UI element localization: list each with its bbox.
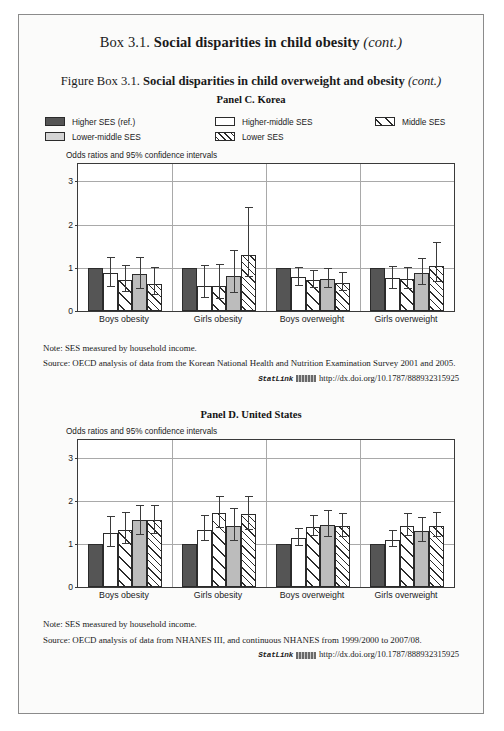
panel-c-axis-note: Odds ratios and 95% confidence intervals bbox=[66, 151, 483, 160]
legend-swatch-icon-lower-ses bbox=[215, 132, 235, 141]
statlink-label: StatLink bbox=[258, 375, 293, 383]
error-bar-higher-middle-ses bbox=[204, 515, 205, 542]
panel-c-statlink[interactable]: StatLinkhttp://dx.doi.org/10.1787/888932… bbox=[43, 372, 459, 385]
error-bar-middle-ses bbox=[125, 512, 126, 544]
panel-d-footnotes: Note: SES measured by household income. … bbox=[43, 618, 459, 661]
legend-swatch-icon-higher-ses bbox=[45, 117, 65, 126]
panel-d-chart: 0123 Boys obesityGirls obesityBoys overw… bbox=[41, 439, 461, 614]
box-title: Box 3.1. Social disparities in child obe… bbox=[19, 34, 483, 51]
panel-c-source-label: Source: bbox=[43, 358, 70, 368]
panel-d-source-text: OECD analysis of data from NHANES III, a… bbox=[72, 635, 421, 645]
y-axis-tick-label: 2 bbox=[39, 496, 78, 506]
x-axis-label: Boys obesity bbox=[99, 314, 149, 324]
figure-title: Figure Box 3.1. Social disparities in ch… bbox=[19, 74, 483, 89]
x-axis-label: Girls overweight bbox=[374, 590, 437, 600]
error-bar-higher-middle-ses bbox=[392, 266, 393, 289]
error-bar-lower-ses bbox=[248, 496, 249, 530]
x-axis-label: Boys overweight bbox=[280, 314, 345, 324]
panel-c-chart: 0123 Boys obesityGirls obesityBoys overw… bbox=[41, 163, 461, 338]
group-separator bbox=[266, 440, 267, 587]
statlink-label: StatLink bbox=[258, 651, 293, 659]
box-number: Box 3.1. bbox=[100, 34, 150, 50]
y-axis-tick-label: 0 bbox=[39, 306, 78, 316]
panel-c-note-label: Note: bbox=[43, 343, 63, 353]
figure-number: Figure Box 3.1. bbox=[61, 74, 140, 88]
group-separator bbox=[172, 164, 173, 311]
panel-c-x-axis-labels: Boys obesityGirls obesityBoys overweight… bbox=[77, 314, 455, 334]
panel-d-statlink[interactable]: StatLinkhttp://dx.doi.org/10.1787/888932… bbox=[43, 648, 459, 661]
panel-d-statlink-url[interactable]: http://dx.doi.org/10.1787/888932315925 bbox=[319, 649, 459, 659]
legend-item-lower-middle-ses: Lower-middle SES bbox=[45, 132, 215, 142]
panel-d-source: Source: OECD analysis of data from NHANE… bbox=[43, 634, 459, 646]
error-bar-lower-ses bbox=[154, 505, 155, 534]
legend-label-lower-middle-ses: Lower-middle SES bbox=[72, 132, 141, 142]
error-bar-higher-middle-ses bbox=[298, 528, 299, 546]
x-axis-label: Boys overweight bbox=[280, 590, 345, 600]
error-bar-middle-ses bbox=[219, 496, 220, 528]
error-bar-lower-middle-ses bbox=[328, 510, 329, 536]
panel-c-note: Note: SES measured by household income. bbox=[43, 342, 459, 354]
bar-higher-ses bbox=[182, 268, 197, 311]
bar-higher-ses bbox=[88, 544, 103, 587]
panel-c-footnotes: Note: SES measured by household income. … bbox=[43, 342, 459, 385]
error-bar-middle-ses bbox=[219, 264, 220, 299]
panel-c-statlink-url[interactable]: http://dx.doi.org/10.1787/888932315925 bbox=[319, 373, 459, 383]
group-separator bbox=[360, 164, 361, 311]
error-bar-higher-middle-ses bbox=[298, 267, 299, 286]
legend-label-higher-middle-ses: Higher-middle SES bbox=[242, 117, 313, 127]
panel-c-note-text: SES measured by household income. bbox=[65, 343, 197, 353]
legend-swatch-icon-lower-middle-ses bbox=[45, 132, 65, 141]
legend-swatch-icon-higher-middle-ses bbox=[215, 117, 235, 126]
legend-item-higher-middle-ses: Higher-middle SES bbox=[215, 117, 375, 127]
box-cont-marker: (cont.) bbox=[363, 34, 402, 50]
chart-legend: Higher SES (ref.) Higher-middle SES Midd… bbox=[45, 114, 457, 144]
panel-c-title: Panel C. Korea bbox=[19, 94, 483, 105]
panel-d-note-label: Note: bbox=[43, 619, 63, 629]
error-bar-lower-middle-ses bbox=[234, 508, 235, 540]
legend-label-middle-ses: Middle SES bbox=[402, 117, 445, 127]
error-bar-lower-middle-ses bbox=[328, 268, 329, 287]
error-bar-lower-middle-ses bbox=[422, 258, 423, 285]
error-bar-higher-middle-ses bbox=[392, 530, 393, 547]
error-bar-middle-ses bbox=[313, 515, 314, 537]
panel-d-title: Panel D. United States bbox=[19, 409, 483, 420]
panel-d-plot-area: 0123 bbox=[77, 439, 455, 588]
error-bar-lower-ses bbox=[342, 272, 343, 291]
panel-d-axis-note: Odds ratios and 95% confidence intervals bbox=[66, 427, 483, 436]
error-bar-higher-middle-ses bbox=[204, 265, 205, 299]
x-axis-label: Girls obesity bbox=[194, 590, 242, 600]
error-bar-middle-ses bbox=[407, 513, 408, 536]
panel-d-x-axis-labels: Boys obesityGirls obesityBoys overweight… bbox=[77, 590, 455, 610]
error-bar-middle-ses bbox=[407, 267, 408, 289]
group-separator bbox=[172, 440, 173, 587]
error-bar-lower-middle-ses bbox=[234, 250, 235, 293]
error-bar-lower-middle-ses bbox=[140, 505, 141, 535]
error-bar-lower-ses bbox=[154, 267, 155, 295]
legend-item-middle-ses: Middle SES bbox=[375, 117, 457, 127]
y-axis-tick-label: 3 bbox=[39, 176, 78, 186]
figure-cont-marker: (cont.) bbox=[408, 74, 441, 88]
legend-swatch-icon-middle-ses bbox=[375, 117, 395, 126]
figure-title-text: Social disparities in child overweight a… bbox=[143, 74, 405, 88]
panel-c-plot-area: 0123 bbox=[77, 163, 455, 312]
box-page: Box 3.1. Social disparities in child obe… bbox=[18, 14, 484, 714]
error-bar-lower-ses bbox=[248, 207, 249, 277]
box-title-text: Social disparities in child obesity bbox=[154, 34, 360, 50]
x-axis-label: Girls obesity bbox=[194, 314, 242, 324]
barcode-icon bbox=[296, 652, 316, 659]
legend-item-higher-ses: Higher SES (ref.) bbox=[45, 117, 215, 127]
legend-label-lower-ses: Lower SES bbox=[242, 132, 284, 142]
x-axis-label: Girls overweight bbox=[374, 314, 437, 324]
panel-d-source-label: Source: bbox=[43, 635, 70, 645]
panel-c-source-text: OECD analysis of data from the Korean Na… bbox=[72, 358, 455, 368]
y-axis-tick-label: 3 bbox=[39, 453, 78, 463]
error-bar-lower-middle-ses bbox=[140, 257, 141, 288]
legend-label-higher-ses: Higher SES (ref.) bbox=[72, 117, 135, 127]
panel-d-note-text: SES measured by household income. bbox=[65, 619, 197, 629]
bar-higher-ses bbox=[182, 544, 197, 587]
error-bar-lower-ses bbox=[436, 242, 437, 282]
bar-higher-ses bbox=[88, 268, 103, 311]
error-bar-lower-ses bbox=[436, 512, 437, 538]
error-bar-lower-ses bbox=[342, 513, 343, 537]
y-axis-tick-label: 0 bbox=[39, 582, 78, 592]
